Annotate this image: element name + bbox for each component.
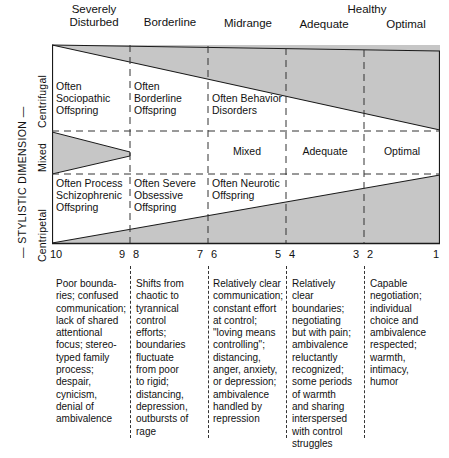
- cell-top-1: Often Sociopathic Offspring: [56, 80, 130, 117]
- cell-bottom-1: Often Process Schizophrenic Offspring: [56, 177, 136, 214]
- tick-4: 4: [289, 248, 295, 260]
- cell-top-3: Often Behavior Disorders: [212, 92, 302, 116]
- description-severely-disturbed: Poor bounda- ries; confused communicatio…: [56, 278, 128, 426]
- tick-1: 1: [433, 248, 439, 260]
- tick-6: 6: [211, 248, 217, 260]
- tick-3: 3: [353, 248, 359, 260]
- cell-bottom-2: Often Severe Obsessive Offspring: [134, 177, 212, 214]
- cell-middle-4: Adequate: [286, 145, 364, 157]
- stylistic-dimension-title: — STYLISTIC DIMENSION —: [16, 106, 28, 258]
- cell-bottom-3: Often Neurotic Offspring: [212, 177, 308, 201]
- desc-divider-2: [208, 266, 209, 438]
- header-severely-disturbed: Severely Disturbed: [56, 3, 132, 28]
- desc-divider-1: [130, 266, 131, 438]
- description-midrange: Relatively clear communication; constant…: [213, 278, 287, 426]
- header-optimal: Optimal: [370, 18, 442, 31]
- cell-top-2: Often Borderline Offspring: [134, 80, 208, 117]
- tick-7: 7: [197, 248, 203, 260]
- beavers-model-figure: — STYLISTIC DIMENSION — Centrifugal Mixe…: [0, 0, 449, 458]
- description-optimal: Capable negotiation; individual choice a…: [370, 278, 444, 389]
- header-borderline: Borderline: [134, 16, 206, 29]
- vertical-axis: — STYLISTIC DIMENSION — Centrifugal Mixe…: [0, 0, 52, 268]
- description-adequate: Relatively clear boundaries; negotiating…: [292, 278, 364, 450]
- tick-2: 2: [367, 248, 373, 260]
- description-columns: Poor bounda- ries; confused communicatio…: [52, 278, 449, 458]
- header-adequate: Adequate: [288, 18, 360, 31]
- cell-middle-3: Mixed: [208, 145, 286, 157]
- header-midrange: Midrange: [212, 17, 284, 30]
- band-label-centrifugal: Centrifugal: [36, 75, 48, 128]
- tick-10: 10: [50, 248, 62, 260]
- tick-9: 9: [119, 248, 125, 260]
- desc-divider-4: [364, 266, 365, 438]
- cell-middle-5: Optimal: [364, 145, 440, 157]
- tick-5: 5: [275, 248, 281, 260]
- header-healthy: Healthy: [330, 3, 404, 16]
- band-label-mixed: Mixed: [36, 143, 48, 172]
- band-label-centripetal: Centripetal: [36, 209, 48, 262]
- mixed-shade: [52, 132, 130, 174]
- tick-8: 8: [133, 248, 139, 260]
- description-borderline: Shifts from chaotic to tyrannical contro…: [136, 278, 206, 438]
- plot-area: Often Sociopathic Offspring Often Border…: [52, 44, 440, 247]
